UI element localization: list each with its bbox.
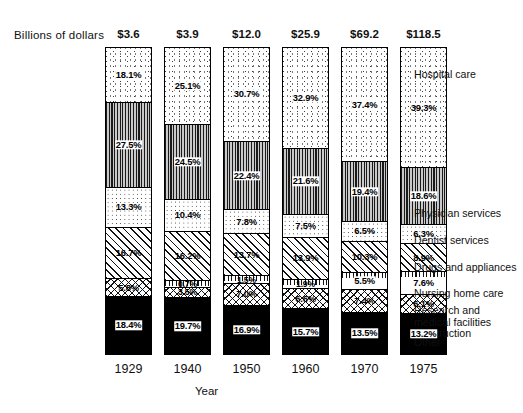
segment-1940-hospital: 25.1%: [165, 48, 210, 125]
segment-1960-physician: 21.6%: [283, 149, 328, 215]
segment-value: 8.9%: [412, 253, 435, 262]
segment-1929-physician: 27.5%: [106, 103, 151, 187]
segment-1960-other: 15.7%: [283, 309, 328, 354]
segment-1940-research: 3.5%: [165, 288, 210, 299]
segment-value: 19.4%: [351, 187, 379, 196]
segment-value: 16.9%: [233, 325, 261, 334]
bar-1940: 25.1% 24.5% 10.4% 16.2% 0.7% 3.5% 19.7%: [164, 47, 211, 355]
segment-value: 18.1%: [115, 70, 143, 79]
segment-value: 39.3%: [410, 103, 438, 112]
segment-value: 5.5%: [353, 276, 376, 285]
segment-1929-research: 5.8%: [106, 279, 151, 297]
column-total-1960: $25.9: [282, 28, 329, 40]
legend-label-physician-services: Physician services: [414, 208, 501, 220]
x-tick-1970: 1970: [341, 362, 388, 376]
column-total-1940: $3.9: [164, 28, 211, 40]
x-tick-1929: 1929: [105, 362, 152, 376]
segment-value: 1.9%: [295, 280, 316, 288]
segment-1950-hospital: 30.7%: [224, 48, 269, 142]
segment-value: 30.7%: [233, 90, 261, 99]
segment-1970-physician: 19.4%: [342, 162, 387, 221]
column-total-1929: $3.6: [105, 28, 152, 40]
segment-value: 6.3%: [412, 230, 435, 239]
segment-value: 6.6%: [294, 294, 317, 303]
segment-1929-dentist: 13.3%: [106, 188, 151, 229]
segment-value: 13.7%: [233, 250, 261, 259]
bar-1970: 37.4% 19.4% 6.5% 10.3% 5.5% 7.4% 13.5%: [341, 47, 388, 355]
segment-1929-drugs: 16.7%: [106, 228, 151, 279]
segment-1970-research: 7.4%: [342, 290, 387, 313]
segment-value: 18.6%: [410, 192, 438, 201]
x-tick-1975: 1975: [400, 362, 447, 376]
segment-1970-dentist: 6.5%: [342, 222, 387, 242]
column-total-1975-wrap: $118.5: [366, 28, 463, 40]
units-label: Billions of dollars: [14, 29, 104, 41]
segment-value: 7.6%: [412, 278, 435, 287]
segment-value: 13.9%: [292, 254, 320, 263]
segment-value: 24.5%: [174, 157, 202, 166]
x-axis-title: Year: [195, 385, 218, 397]
segment-value: 16.7%: [115, 249, 143, 258]
legend-label-hospital-care: Hospital care: [414, 69, 476, 81]
stacked-bar-chart: Billions of dollars $3.6 $3.9 $12.0 $25.…: [0, 0, 523, 413]
segment-value: 6.1%: [412, 299, 435, 308]
segment-value: 22.4%: [233, 171, 261, 180]
segment-value: 13.5%: [351, 329, 379, 338]
bar-1960: 32.9% 21.6% 7.5% 13.9% 1.9% 6.6% 15.7%: [282, 47, 329, 355]
x-tick-1960: 1960: [282, 362, 329, 376]
segment-value: 19.7%: [174, 321, 202, 330]
bar-1950: 30.7% 22.4% 7.8% 13.7% 1.5% 7.0% 16.9%: [223, 47, 270, 355]
segment-1970-other: 13.5%: [342, 313, 387, 354]
segment-value: 13.3%: [115, 203, 143, 212]
segment-1950-other: 16.9%: [224, 306, 269, 354]
segment-1940-other: 19.7%: [165, 298, 210, 354]
segment-1970-hospital: 37.4%: [342, 48, 387, 162]
segment-value: 1.5%: [236, 276, 257, 284]
segment-1940-dentist: 10.4%: [165, 200, 210, 232]
legend-label-drugs-and-appliances: Drugs and appliances: [414, 262, 516, 274]
column-total-1975: $118.5: [400, 28, 447, 40]
segment-1950-physician: 22.4%: [224, 142, 269, 211]
segment-value: 7.5%: [294, 221, 317, 230]
segment-1950-research: 7.0%: [224, 284, 269, 305]
segment-value: 7.0%: [235, 290, 258, 299]
segment-value: 32.9%: [292, 93, 320, 102]
column-total-1950: $12.0: [223, 28, 270, 40]
x-tick-1940: 1940: [164, 362, 211, 376]
segment-1960-dentist: 7.5%: [283, 215, 328, 238]
segment-1940-drugs: 16.2%: [165, 232, 210, 282]
segment-1975-hospital: 39.3%: [401, 48, 446, 168]
x-tick-1950: 1950: [223, 362, 270, 376]
segment-1960-hospital: 32.9%: [283, 48, 328, 149]
segment-value: 7.4%: [353, 296, 376, 305]
segment-1940-physician: 24.5%: [165, 125, 210, 200]
bar-1929: 18.1% 27.5% 13.3% 16.7% 5.8% 18.4%: [105, 47, 152, 355]
segment-1970-drugs: 10.3%: [342, 242, 387, 274]
segment-1970-nursing: 5.5%: [342, 273, 387, 290]
segment-value: 7.8%: [235, 217, 258, 226]
segment-1929-other: 18.4%: [106, 297, 151, 354]
segment-value: 27.5%: [115, 140, 143, 149]
segment-value: 37.4%: [351, 100, 379, 109]
segment-value: 25.1%: [174, 81, 202, 90]
segment-1960-research: 6.6%: [283, 289, 328, 309]
segment-value: 5.8%: [117, 283, 140, 292]
x-axis-title-wrap: Year: [0, 385, 523, 397]
segment-1950-nursing: 1.5%: [224, 276, 269, 284]
segment-value: 6.5%: [353, 227, 376, 236]
segment-value: 16.2%: [174, 251, 202, 260]
segment-value: 18.4%: [115, 321, 143, 330]
segment-value: 15.7%: [292, 327, 320, 336]
segment-1950-drugs: 13.7%: [224, 234, 269, 276]
segment-value: 10.4%: [174, 210, 202, 219]
segment-value: 10.3%: [351, 252, 379, 261]
segment-value: 21.6%: [292, 177, 320, 186]
segment-1929-hospital: 18.1%: [106, 48, 151, 103]
segment-value: 13.2%: [410, 329, 438, 338]
segment-1950-dentist: 7.8%: [224, 210, 269, 234]
segment-1960-drugs: 13.9%: [283, 238, 328, 281]
segment-value: 3.5%: [177, 288, 198, 297]
segment-1960-nursing: 1.9%: [283, 280, 328, 289]
